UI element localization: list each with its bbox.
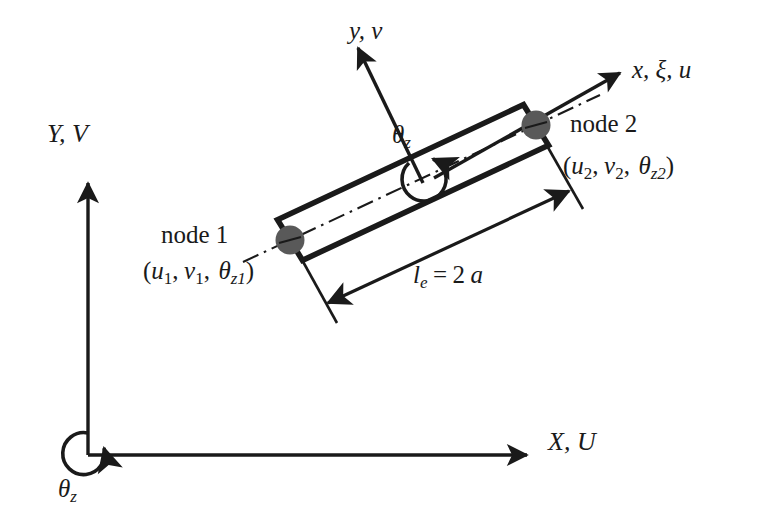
dimension-equals: = (433, 261, 447, 288)
global-y-axis-label: Y, V (47, 121, 88, 147)
dimension-extension-line-left (301, 258, 337, 323)
node-1-paren-close: ) (246, 257, 254, 284)
node-2-dof-theta-sub: z2 (651, 164, 666, 183)
node-1-dof-v-sub: 1 (195, 269, 204, 288)
node-2-dof-u: u (571, 152, 584, 179)
node-1-dof-v: v (184, 257, 195, 284)
dimension-symbol: l (413, 261, 420, 288)
node-2-dof-label: (u2,v2,θz2) (563, 153, 674, 182)
node-marker-1 (276, 226, 305, 255)
figure-canvas: Y, V X, U θz y, v x, ξ, u θz node 1 (u1,… (0, 0, 773, 523)
dimension-label: le=2a (413, 262, 483, 291)
local-rotation-label: θz (392, 122, 411, 151)
node-1-dof-theta: θ (218, 257, 230, 284)
node-2-dof-v: v (604, 152, 615, 179)
local-x-axis-label: x, ξ, u (632, 57, 691, 82)
local-axis-y (358, 48, 423, 183)
global-x-axis-label: X, U (548, 429, 596, 455)
node-1-dof-theta-sub: z1 (231, 269, 246, 288)
node-1-label: node 1 (161, 222, 228, 247)
global-rotation-subscript: z (70, 487, 77, 506)
local-rotation-theta: θ (392, 121, 404, 148)
node-2-dof-v-sub: 2 (615, 164, 624, 183)
node-1-dof-u: u (151, 257, 164, 284)
node-marker-2 (522, 111, 551, 140)
global-rotation-theta: θ (58, 475, 70, 502)
local-y-axis-label: y, v (349, 18, 382, 43)
global-rotation-label: θz (58, 476, 77, 505)
dimension-value: 2 (453, 261, 466, 288)
beam-element-outline (278, 105, 549, 261)
node-2-dof-theta: θ (638, 152, 650, 179)
node-2-label: node 2 (570, 111, 637, 136)
local-rotation-subscript: z (404, 133, 411, 152)
dimension-symbol-sub: e (420, 273, 428, 292)
dimension-unit-symbol: a (471, 261, 484, 288)
node-1-dof-label: (u1,v1,θz1) (143, 258, 254, 287)
node-2-paren-close: ) (666, 152, 674, 179)
